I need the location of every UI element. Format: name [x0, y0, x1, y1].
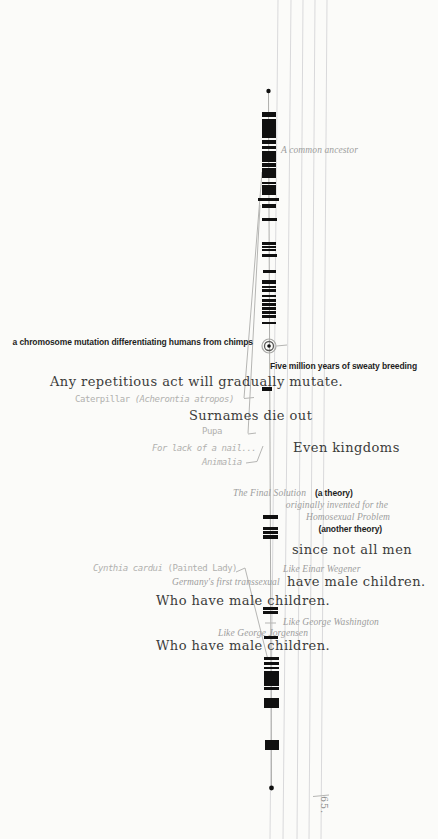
chromosome-band	[262, 249, 276, 251]
ruled-line	[321, 0, 327, 839]
label-caterpillar: Caterpillar (Acherontia atropos)	[75, 395, 234, 404]
text-who-have-male-children-1: Who have male children.	[156, 594, 330, 608]
chromosome-band	[264, 698, 279, 708]
leader-line	[248, 433, 256, 434]
label-germanys-first-transsexual: Germany's first transsexual	[172, 578, 280, 588]
chromosome-band	[262, 185, 276, 195]
label-chromosome-mutation: a chromosome mutation differentiating hu…	[8, 338, 253, 347]
label-cynthia-cardui: Cynthia cardui (Painted Lady)	[93, 564, 237, 573]
label-like-george-washington: Like George Washington	[283, 618, 379, 628]
chromosome-band	[258, 198, 279, 201]
chromosome-band	[262, 168, 276, 178]
chromosome-band	[262, 254, 277, 257]
label-pupa: Pupa	[202, 427, 222, 436]
label-for-lack-of-a-nail: For lack of a nail...	[152, 444, 256, 453]
chromosome-band	[262, 307, 276, 310]
chromosome-band	[262, 146, 276, 149]
chromosome-band	[262, 280, 276, 284]
text-surnames-die-out: Surnames die out	[189, 409, 312, 423]
chromosome-band	[262, 295, 276, 297]
chromosome-band	[262, 218, 277, 221]
chromosome-band	[262, 289, 276, 292]
chromosome-band	[262, 315, 276, 318]
chromosome-band	[263, 270, 276, 273]
text-any-repetitious: Any repetitious act will gradually mutat…	[50, 375, 343, 389]
chromosome-band	[263, 515, 278, 519]
text-since-not-all-men: since not all men	[292, 543, 412, 557]
mutation-marker-dot	[267, 344, 271, 348]
chromosome-band	[264, 667, 279, 669]
chromosome-band	[262, 112, 276, 117]
label-caterpillar-common: Caterpillar	[75, 394, 135, 404]
label-common-ancestor: A common ancestor	[281, 146, 358, 156]
chromosome-band	[262, 322, 276, 324]
leader-line	[257, 446, 263, 462]
timeline-start-dot	[266, 89, 270, 93]
text-even-kingdoms: Even kingdoms	[293, 441, 400, 455]
leader-line	[244, 398, 254, 399]
chromosome-band	[262, 242, 276, 245]
text-who-have-male-children-2: Who have male children.	[156, 639, 330, 653]
chromosome-band	[264, 671, 279, 686]
chromosome-band	[262, 204, 276, 208]
leader-line	[246, 462, 257, 464]
label-final-solution: The Final Solution	[233, 489, 306, 499]
leader-line	[277, 345, 288, 346]
text-have-male-children: have male children.	[287, 575, 426, 589]
chromosome-band	[263, 611, 278, 614]
label-caterpillar-latin: (Acherontia atropos)	[135, 394, 234, 404]
label-cynthia-common: (Painted Lady)	[168, 563, 238, 573]
chromosome-band	[262, 303, 276, 306]
chromosome-band	[264, 657, 279, 660]
label-animalia: Animalia	[202, 458, 242, 467]
chromosome-band	[262, 182, 276, 184]
book-page: A common ancestor a chromosome mutation …	[0, 0, 438, 839]
chromosome-band	[262, 311, 276, 314]
label-cynthia-latin: Cynthia cardui	[93, 563, 168, 573]
label-a-theory: (a theory)	[315, 489, 353, 498]
leader-line	[236, 568, 245, 572]
chromosome-band	[265, 740, 279, 750]
timeline-end-dot	[269, 786, 274, 791]
chromosome-band	[262, 151, 276, 162]
chromosome-band	[262, 140, 276, 144]
chromosome-band	[262, 299, 276, 302]
chromosome-band	[264, 687, 279, 690]
leader-line	[244, 172, 262, 398]
chromosome-band	[262, 163, 276, 167]
page-number: 65.	[319, 796, 329, 814]
chromosome-band	[263, 535, 278, 539]
chromosome-band	[264, 662, 279, 665]
label-originally-invented: originally invented for the	[286, 501, 388, 511]
chromosome-band	[262, 119, 276, 138]
label-five-million-years: Five million years of sweaty breeding	[270, 362, 417, 371]
chromosome-band	[263, 531, 278, 534]
chromosome-band	[263, 527, 278, 530]
chromosome-band	[262, 286, 276, 288]
label-another-theory: (another theory)	[318, 525, 382, 534]
chromosome-band	[262, 246, 276, 248]
label-homosexual-problem: Homosexual Problem	[306, 513, 390, 523]
